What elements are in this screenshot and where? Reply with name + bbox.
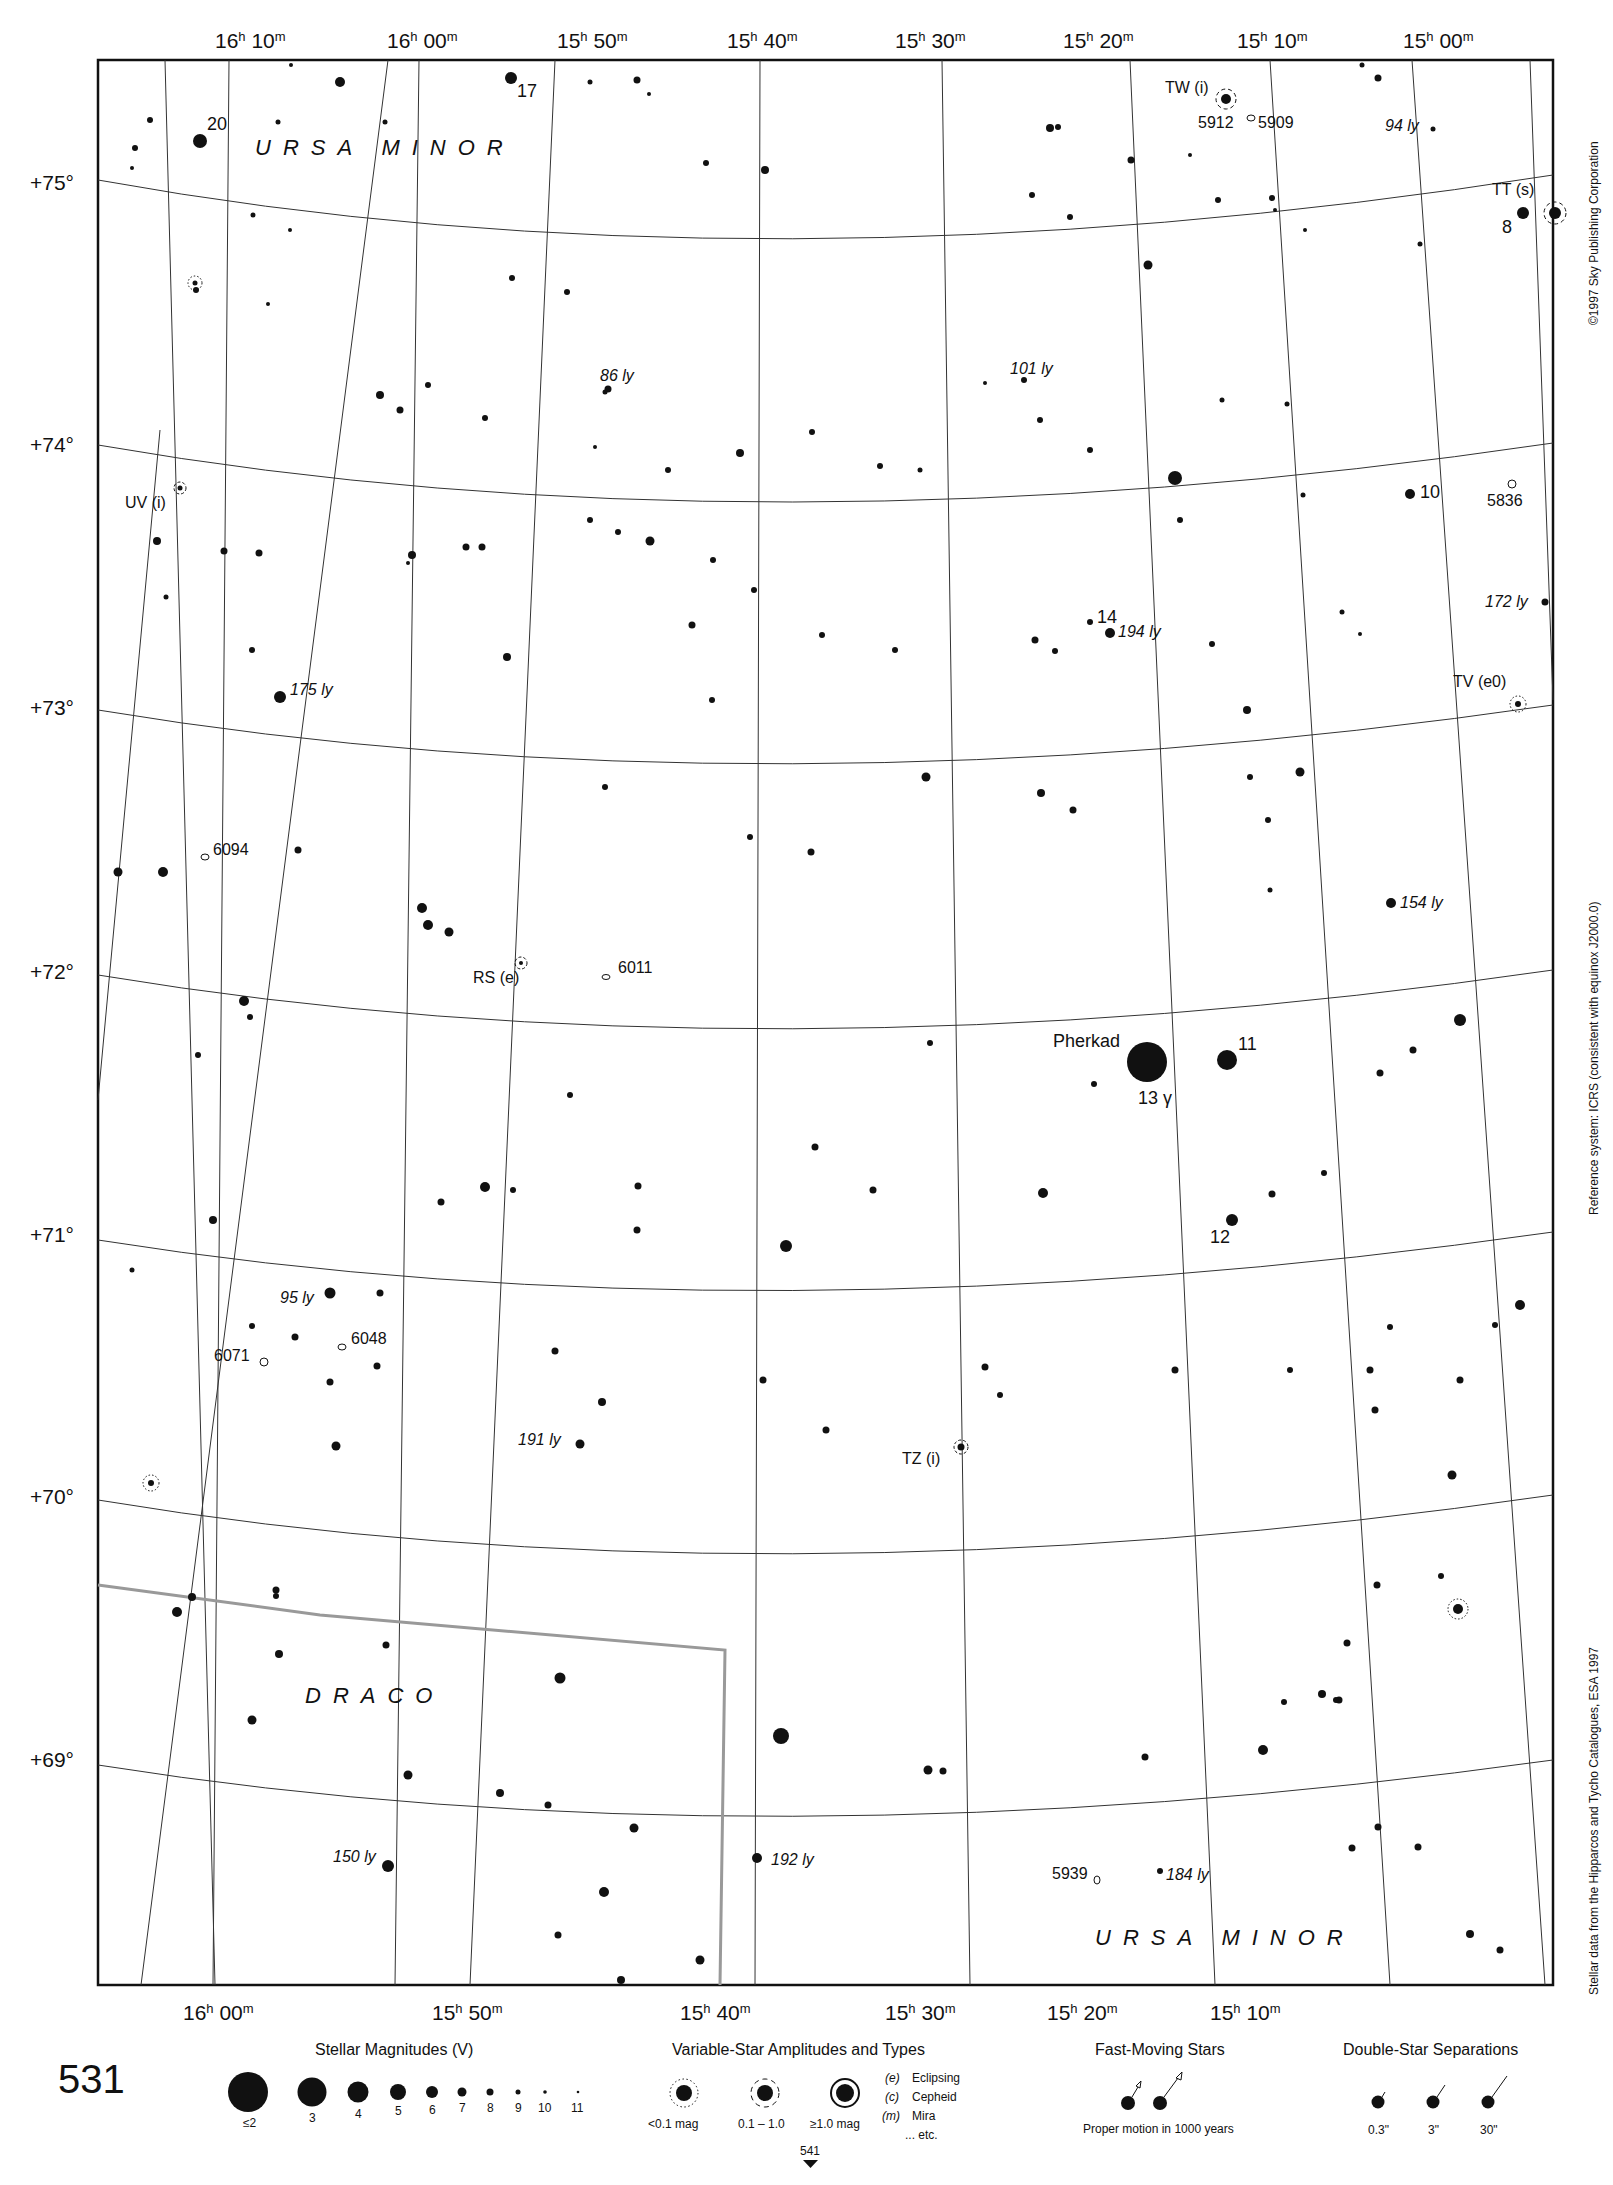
svg-text:≤2: ≤2 xyxy=(243,2116,257,2130)
svg-text:≥1.0 mag: ≥1.0 mag xyxy=(810,2117,860,2131)
copyright-text: ©1997 Sky Publishing Corporation xyxy=(1587,141,1601,325)
dec-labels: +75° +74° +73° +72° +71° +70° +69° xyxy=(30,171,74,1771)
svg-text:191 ly: 191 ly xyxy=(518,1431,562,1448)
declination-grid xyxy=(98,175,1553,1816)
svg-text:192 ly: 192 ly xyxy=(771,1851,815,1868)
svg-text:8: 8 xyxy=(1502,217,1512,237)
svg-text:TT (s): TT (s) xyxy=(1492,181,1534,198)
svg-text:(m): (m) xyxy=(882,2109,900,2123)
svg-text:TZ (i): TZ (i) xyxy=(902,1450,940,1467)
svg-text:Double-Star Separations: Double-Star Separations xyxy=(1343,2041,1518,2058)
constellation-boundary-draco xyxy=(98,1585,725,1985)
constellation-labels: URSA MINOR DRACO URSA MINOR xyxy=(255,135,1355,1950)
svg-text:Variable-Star Amplitudes and T: Variable-Star Amplitudes and Types xyxy=(672,2041,925,2058)
svg-text:15h 40m: 15h 40m xyxy=(680,2001,751,2024)
svg-text:+73°: +73° xyxy=(30,696,74,719)
svg-text:... etc.: ... etc. xyxy=(905,2128,938,2142)
svg-text:12: 12 xyxy=(1210,1227,1230,1247)
reference-system-text: Reference system: ICRS (consistent with … xyxy=(1587,902,1601,1215)
svg-text:194 ly: 194 ly xyxy=(1118,623,1162,640)
constellation-ursa-minor-south: URSA MINOR xyxy=(1095,1925,1355,1950)
svg-text:15h 30m: 15h 30m xyxy=(895,29,966,52)
next-chart-arrow-icon xyxy=(803,2160,818,2168)
svg-text:RS (e): RS (e) xyxy=(473,969,519,986)
label-13-gamma: 13 γ xyxy=(1138,1088,1172,1108)
variable-star-labels: TW (i) TT (s) UV (i) TV (e0) RS (e) TZ (… xyxy=(125,79,1534,1467)
svg-text:0.3": 0.3" xyxy=(1368,2123,1389,2137)
svg-text:+75°: +75° xyxy=(30,171,74,194)
svg-text:10: 10 xyxy=(538,2101,552,2115)
svg-text:3": 3" xyxy=(1428,2123,1439,2137)
svg-text:101 ly: 101 ly xyxy=(1010,360,1054,377)
svg-text:Eclipsing: Eclipsing xyxy=(912,2071,960,2085)
svg-text:15h 40m: 15h 40m xyxy=(727,29,798,52)
legend: 531 Stellar Magnitudes (V) ≤2 3 4 5 6 7 … xyxy=(58,2041,1518,2168)
svg-text:154 ly: 154 ly xyxy=(1400,894,1444,911)
svg-text:5836: 5836 xyxy=(1487,492,1523,509)
svg-text:94 ly: 94 ly xyxy=(1385,117,1420,134)
next-chart-number: 541 xyxy=(800,2144,820,2158)
svg-text:+71°: +71° xyxy=(30,1223,74,1246)
svg-text:(c): (c) xyxy=(885,2090,899,2104)
svg-text:Stellar Magnitudes (V): Stellar Magnitudes (V) xyxy=(315,2041,473,2058)
svg-text:+72°: +72° xyxy=(30,960,74,983)
svg-text:15h 50m: 15h 50m xyxy=(557,29,628,52)
svg-text:UV (i): UV (i) xyxy=(125,494,166,511)
svg-text:86 ly: 86 ly xyxy=(600,367,635,384)
constellation-draco: DRACO xyxy=(305,1683,444,1708)
svg-text:6048: 6048 xyxy=(351,1330,387,1347)
svg-text:15h 30m: 15h 30m xyxy=(885,2001,956,2024)
svg-text:Mira: Mira xyxy=(912,2109,936,2123)
svg-text:175 ly: 175 ly xyxy=(290,681,334,698)
star-pherkad[interactable] xyxy=(1127,1042,1167,1082)
star-atlas-chart: 16h 10m 16h 00m 15h 50m 15h 40m 15h 30m … xyxy=(0,0,1613,2185)
ra-labels-top: 16h 10m 16h 00m 15h 50m 15h 40m 15h 30m … xyxy=(215,29,1474,52)
named-stars xyxy=(193,72,1549,1874)
svg-text:10: 10 xyxy=(1420,482,1440,502)
svg-text:8: 8 xyxy=(487,2101,494,2115)
svg-text:150 ly: 150 ly xyxy=(333,1848,377,1865)
svg-text:5: 5 xyxy=(395,2104,402,2118)
svg-text:11: 11 xyxy=(1238,1034,1257,1054)
svg-text:184 ly: 184 ly xyxy=(1166,1866,1210,1883)
svg-text:9: 9 xyxy=(515,2101,522,2115)
svg-text:6: 6 xyxy=(429,2103,436,2117)
svg-text:TW (i): TW (i) xyxy=(1165,79,1209,96)
svg-text:+74°: +74° xyxy=(30,433,74,456)
label-pherkad: Pherkad xyxy=(1053,1031,1120,1051)
svg-text:0.1 – 1.0: 0.1 – 1.0 xyxy=(738,2117,785,2131)
svg-text:14: 14 xyxy=(1097,607,1117,627)
svg-text:15h 10m: 15h 10m xyxy=(1210,2001,1281,2024)
svg-text:15h 10m: 15h 10m xyxy=(1237,29,1308,52)
data-source-text: Stellar data from the Hipparcos and Tych… xyxy=(1587,1647,1601,1995)
svg-text:7: 7 xyxy=(459,2101,466,2115)
svg-text:Fast-Moving Stars: Fast-Moving Stars xyxy=(1095,2041,1225,2058)
svg-text:5909: 5909 xyxy=(1258,114,1294,131)
svg-text:+70°: +70° xyxy=(30,1485,74,1508)
distance-labels: 175 ly 86 ly 101 ly 194 ly 172 ly 94 ly … xyxy=(280,117,1529,1883)
svg-text:(e): (e) xyxy=(885,2071,900,2085)
svg-text:20: 20 xyxy=(207,114,227,134)
svg-text:Cepheid: Cepheid xyxy=(912,2090,957,2104)
svg-text:16h 00m: 16h 00m xyxy=(387,29,458,52)
svg-text:5912: 5912 xyxy=(1198,114,1234,131)
svg-text:15h 00m: 15h 00m xyxy=(1403,29,1474,52)
svg-text:4: 4 xyxy=(355,2107,362,2121)
svg-text:16h 00m: 16h 00m xyxy=(183,2001,254,2024)
svg-text:3: 3 xyxy=(309,2111,316,2125)
svg-text:<0.1 mag: <0.1 mag xyxy=(648,2117,698,2131)
svg-text:15h 20m: 15h 20m xyxy=(1047,2001,1118,2024)
svg-text:16h 10m: 16h 10m xyxy=(215,29,286,52)
svg-text:6011: 6011 xyxy=(618,959,653,976)
chart-number: 531 xyxy=(58,2057,125,2101)
constellation-ursa-minor-north: URSA MINOR xyxy=(255,135,515,160)
svg-text:15h 50m: 15h 50m xyxy=(432,2001,503,2024)
svg-text:17: 17 xyxy=(517,81,537,101)
svg-text:11: 11 xyxy=(571,2101,584,2115)
magnitude-scale xyxy=(228,2072,579,2112)
svg-text:+69°: +69° xyxy=(30,1748,74,1771)
svg-text:6094: 6094 xyxy=(213,841,249,858)
svg-text:95 ly: 95 ly xyxy=(280,1289,315,1306)
svg-text:15h 20m: 15h 20m xyxy=(1063,29,1134,52)
svg-text:Proper motion in 1000 years: Proper motion in 1000 years xyxy=(1083,2122,1234,2136)
